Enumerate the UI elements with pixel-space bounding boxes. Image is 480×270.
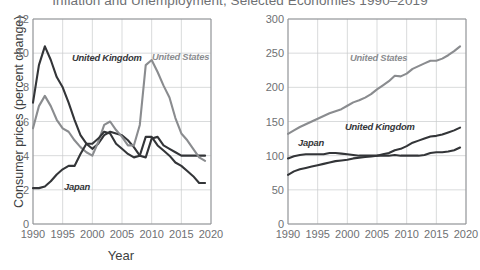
series-line-united-kingdom (288, 128, 460, 175)
right-plot-area: 0501001502002503001990199520002005201020… (240, 0, 480, 245)
right-x-tick: 2015 (424, 228, 448, 240)
series-annotation-japan: Japan (298, 137, 325, 148)
series-annotation-united-kingdom: United Kingdom (345, 121, 415, 132)
right-x-tick: 2020 (454, 228, 478, 240)
right-x-tick: 2005 (365, 228, 389, 240)
left-chart-panel: Consumer prices (percent change) Year 02… (0, 0, 240, 270)
left-x-tick: 2020 (199, 228, 223, 240)
left-y-tick: 10 (17, 47, 29, 59)
left-y-tick: 2 (23, 184, 29, 196)
left-y-tick: 8 (23, 81, 29, 93)
right-y-tick: 100 (266, 150, 284, 162)
series-annotation-united-states: United States (350, 52, 407, 63)
right-x-tick: 1995 (305, 228, 329, 240)
right-y-tick: 200 (266, 81, 284, 93)
figure-root: Inflation and Unemployment, Selected Eco… (0, 0, 480, 270)
right-y-tick: 250 (266, 47, 284, 59)
right-x-tick: 1990 (276, 228, 300, 240)
left-x-tick: 1990 (21, 228, 45, 240)
left-x-tick: 2010 (139, 228, 163, 240)
left-y-tick: 4 (23, 150, 29, 162)
left-x-tick: 1995 (50, 228, 74, 240)
left-x-tick: 2000 (80, 228, 104, 240)
left-x-axis-label: Year (30, 248, 212, 263)
left-x-tick: 2005 (110, 228, 134, 240)
left-x-tick: 2015 (169, 228, 193, 240)
right-chart-panel: Consumer prices (percent change) Year 05… (240, 0, 480, 270)
right-y-tick: 50 (272, 184, 284, 196)
series-line-japan (33, 132, 205, 188)
left-plot-area: 0246810121990199520002005201020152020Uni… (0, 0, 240, 245)
series-annotation-japan: Japan (64, 181, 91, 192)
series-annotation-united-states: United States (152, 51, 209, 62)
right-x-tick: 2000 (335, 228, 359, 240)
series-annotation-united-kingdom: United Kingdom (72, 52, 142, 63)
left-y-tick: 6 (23, 116, 29, 128)
right-x-tick: 2010 (394, 228, 418, 240)
left-y-tick: 12 (17, 13, 29, 25)
right-y-tick: 150 (266, 116, 284, 128)
right-y-tick: 300 (266, 13, 284, 25)
